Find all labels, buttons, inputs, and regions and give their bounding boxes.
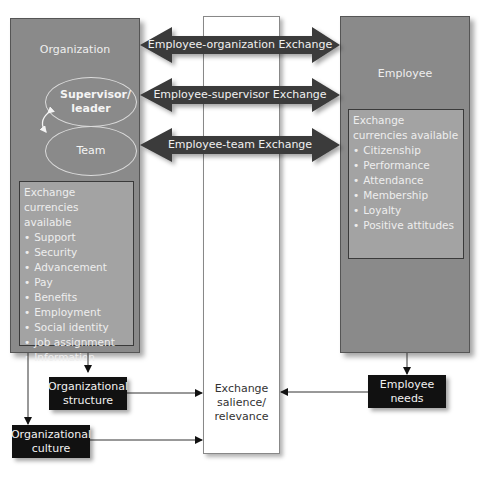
- organizational-culture-box: Organizational culture: [12, 425, 90, 458]
- employee-currencies-box: Exchange currencies available Citizenshi…: [348, 109, 464, 259]
- list-item: Attendance: [353, 173, 459, 188]
- list-item: Positive attitudes: [353, 218, 459, 233]
- employee-needs-box: Employee needs: [368, 375, 446, 408]
- team-ellipse: Team: [45, 126, 137, 176]
- list-item: Advancement: [24, 260, 129, 275]
- organization-currencies-header: Exchange currencies available: [24, 185, 129, 230]
- organization-currencies-list: Support Security Advancement Pay Benefit…: [24, 230, 129, 365]
- list-item: Social identity: [24, 320, 129, 335]
- list-item: Security: [24, 245, 129, 260]
- supervisor-leader-ellipse: Supervisor/ leader: [45, 77, 137, 127]
- list-item: Performance: [353, 158, 459, 173]
- employee-currencies-list: Citizenship Performance Attendance Membe…: [353, 143, 459, 233]
- employee-panel: Employee Exchange currencies available C…: [340, 16, 470, 353]
- employee-title: Employee: [341, 67, 469, 80]
- organization-currencies-box: Exchange currencies available Support Se…: [19, 181, 134, 346]
- list-item: Job assignment: [24, 335, 129, 350]
- exchange-salience-box: Exchange salience/ relevance: [203, 16, 280, 454]
- employee-team-exchange-label: Employee-team Exchange: [168, 138, 312, 151]
- list-item: Support: [24, 230, 129, 245]
- exchange-salience-label: Exchange salience/ relevance: [204, 382, 279, 424]
- employee-currencies-header: Exchange currencies available: [353, 113, 459, 143]
- employee-supervisor-exchange-label: Employee-supervisor Exchange: [153, 88, 326, 101]
- list-item: Pay: [24, 275, 129, 290]
- list-item: Loyalty: [353, 203, 459, 218]
- list-item: Information: [24, 350, 129, 365]
- list-item: Citizenship: [353, 143, 459, 158]
- list-item: Employment: [24, 305, 129, 320]
- organizational-structure-box: Organizational structure: [49, 377, 127, 410]
- organization-title: Organization: [11, 43, 139, 56]
- list-item: Membership: [353, 188, 459, 203]
- employee-organization-exchange-label: Employee-organization Exchange: [148, 38, 332, 51]
- organization-panel: Organization Supervisor/ leader Team Exc…: [10, 18, 140, 353]
- list-item: Benefits: [24, 290, 129, 305]
